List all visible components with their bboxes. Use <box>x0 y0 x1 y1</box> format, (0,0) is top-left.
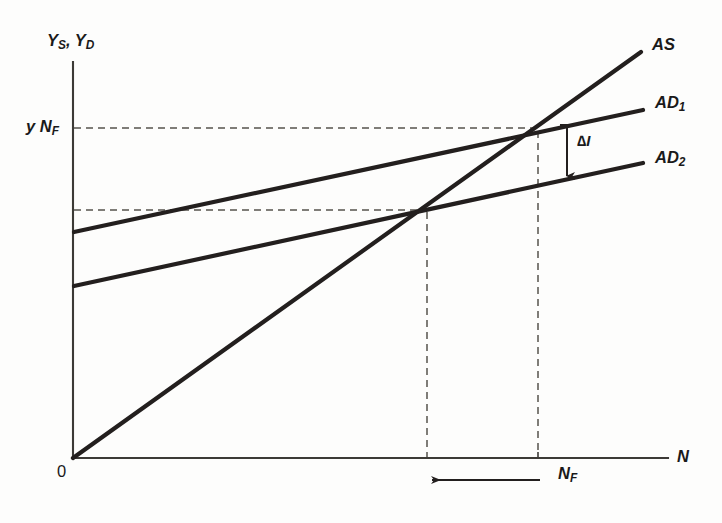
curve-ad2 <box>74 163 643 286</box>
y-axis-title: YS, YD <box>47 31 94 52</box>
curve-label-ad2: AD2 <box>655 148 685 169</box>
chart-canvas <box>0 0 722 523</box>
y-axis-tick-label-ynf: y NF <box>26 117 59 138</box>
x-axis-tick-label-nf: NF <box>558 464 577 485</box>
delta-investment-label: ∆I <box>577 132 590 149</box>
axis-group <box>72 62 668 459</box>
curve-label-as: AS <box>652 35 675 56</box>
economics-chart-figure: YS, YD y NF 0 N AS AD1 AD2 ∆I NF <box>0 0 722 523</box>
curve-group <box>73 52 643 458</box>
origin-label: 0 <box>57 462 66 481</box>
x-axis-title: N <box>677 447 689 466</box>
curve-as <box>73 52 641 458</box>
delta-investment-arrow <box>560 125 574 176</box>
curve-label-ad1: AD1 <box>655 93 685 114</box>
